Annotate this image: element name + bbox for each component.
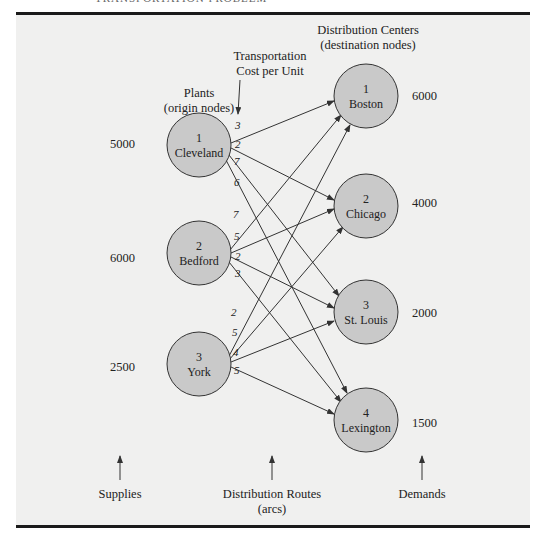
node-name: St. Louis	[331, 313, 401, 328]
supply-cleveland: 5000	[110, 137, 135, 152]
node-id: 4	[331, 406, 401, 421]
cost-york-lexington: 5	[234, 364, 240, 376]
origin-text-york: 3 York	[164, 350, 234, 380]
dc-label: Distribution Centers (destination nodes)	[306, 23, 430, 53]
node-id: 2	[164, 239, 234, 254]
node-id: 1	[331, 82, 401, 97]
cost-bedford-lexington: 3	[235, 267, 241, 279]
dc-subtitle: (destination nodes)	[306, 38, 430, 53]
cost-cleveland-chicago: 2	[235, 138, 241, 150]
arc-cleveland-stlouis	[229, 155, 339, 296]
dest-text-stlouis: 3 St. Louis	[331, 298, 401, 328]
demands-label: Demands	[382, 487, 462, 502]
node-name: Lexington	[331, 421, 401, 436]
supply-bedford: 6000	[110, 251, 135, 266]
node-id: 2	[331, 192, 401, 207]
arc-york-stlouis	[231, 321, 334, 362]
cost-cleveland-stlouis: 7	[234, 155, 240, 167]
node-id: 1	[164, 131, 234, 146]
routes-title: Distribution Routes	[202, 487, 342, 502]
cost-subtitle: Cost per Unit	[220, 64, 320, 79]
cost-cleveland-lexington: 6	[234, 176, 240, 188]
cost-title: Transportation	[220, 49, 320, 64]
origin-text-bedford: 2 Bedford	[164, 239, 234, 269]
cost-york-stlouis: 4	[233, 346, 239, 358]
supply-york: 2500	[110, 360, 135, 375]
node-id: 3	[164, 350, 234, 365]
arc-cleveland-lexington	[226, 160, 347, 393]
demand-chicago: 4000	[412, 196, 437, 211]
cost-label: Transportation Cost per Unit	[220, 49, 320, 79]
node-name: Cleveland	[164, 146, 234, 161]
node-name: York	[164, 365, 234, 380]
dest-text-boston: 1 Boston	[331, 82, 401, 112]
demand-stlouis: 2000	[412, 306, 437, 321]
plants-label: Plants (origin nodes)	[159, 86, 239, 116]
arc-bedford-lexington	[229, 262, 341, 402]
node-id: 3	[331, 298, 401, 313]
dc-title: Distribution Centers	[306, 23, 430, 38]
cost-york-chicago: 5	[232, 326, 238, 338]
cost-york-boston: 2	[231, 306, 237, 318]
plants-subtitle: (origin nodes)	[159, 101, 239, 116]
demand-lexington: 1500	[412, 416, 437, 431]
routes-label: Distribution Routes (arcs)	[202, 487, 342, 517]
cost-bedford-stlouis: 2	[235, 250, 241, 262]
routes-subtitle: (arcs)	[202, 502, 342, 517]
node-name: Chicago	[331, 207, 401, 222]
supplies-label: Supplies	[80, 487, 160, 502]
arc-bedford-chicago	[231, 209, 334, 253]
cost-cleveland-boston: 3	[235, 119, 241, 131]
arc-bedford-stlouis	[231, 257, 334, 308]
cost-bedford-chicago: 5	[234, 230, 240, 242]
node-name: Bedford	[164, 254, 234, 269]
arc-cleveland-chicago	[231, 148, 334, 200]
node-name: Boston	[331, 97, 401, 112]
dest-text-chicago: 2 Chicago	[331, 192, 401, 222]
arc-cleveland-boston	[231, 101, 334, 143]
plants-title: Plants	[159, 86, 239, 101]
demand-boston: 6000	[412, 89, 437, 104]
dest-text-lexington: 4 Lexington	[331, 406, 401, 436]
cost-bedford-boston: 7	[233, 208, 239, 220]
origin-text-cleveland: 1 Cleveland	[164, 131, 234, 161]
network-diagram	[0, 0, 540, 543]
